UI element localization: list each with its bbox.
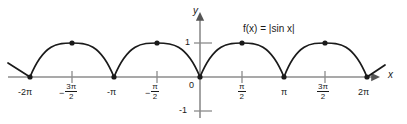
abs-sine-curve — [8, 43, 385, 77]
fraction-numerator: π — [151, 83, 159, 92]
graph-figure: y x f(x) = |sin x| 1 -1 -2π − 3π 2 -π − … — [0, 0, 407, 124]
fraction-pi-over-2: π 2 — [238, 83, 246, 101]
fraction-denominator: 2 — [240, 92, 244, 101]
function-label: f(x) = |sin x| — [243, 24, 295, 34]
minus-sign: − — [145, 89, 150, 98]
curve-tail-right — [367, 65, 385, 77]
x-tick-label-pi-over-2: π 2 — [238, 84, 246, 102]
point-max-3pi2 — [322, 40, 327, 45]
point-min-2pi — [364, 74, 369, 79]
x-tick-label-zero: 0 — [189, 81, 194, 90]
y-tick-label-neg-one: -1 — [179, 106, 187, 115]
fraction-3pi-over-2: 3π 2 — [317, 83, 329, 101]
fraction-numerator: π — [238, 83, 246, 92]
fraction-denominator: 2 — [321, 92, 325, 101]
point-max-neg-pi2 — [154, 40, 159, 45]
point-min-neg-pi — [111, 74, 116, 79]
point-min-neg-2pi — [27, 74, 32, 79]
x-tick-label-2pi: 2π — [358, 88, 369, 97]
fraction-3pi-over-2: 3π 2 — [65, 83, 77, 101]
fraction-numerator: 3π — [65, 83, 77, 92]
point-min-pi — [281, 74, 286, 79]
point-max-pi2 — [239, 40, 244, 45]
x-tick-label-neg-pi: -π — [107, 88, 116, 97]
fraction-numerator: 3π — [317, 83, 329, 92]
curve-tail-left — [8, 63, 30, 77]
fraction-pi-over-2: π 2 — [151, 83, 159, 101]
x-tick-label-neg-3pi-over-2: − 3π 2 — [59, 84, 77, 102]
y-axis-label: y — [193, 6, 198, 16]
x-tick-label-3pi-over-2: 3π 2 — [317, 84, 329, 102]
fraction-denominator: 2 — [69, 92, 73, 101]
x-axis-label: x — [388, 70, 393, 80]
point-min-zero — [197, 74, 202, 79]
fraction-denominator: 2 — [153, 92, 157, 101]
x-tick-label-neg-2pi: -2π — [18, 88, 32, 97]
y-tick-label-one: 1 — [185, 38, 190, 47]
point-max-neg-3pi2 — [69, 40, 74, 45]
x-tick-label-neg-pi-over-2: − π 2 — [145, 84, 159, 102]
plot-canvas — [0, 0, 407, 124]
minus-sign: − — [59, 89, 64, 98]
x-tick-label-pi: π — [281, 88, 287, 97]
